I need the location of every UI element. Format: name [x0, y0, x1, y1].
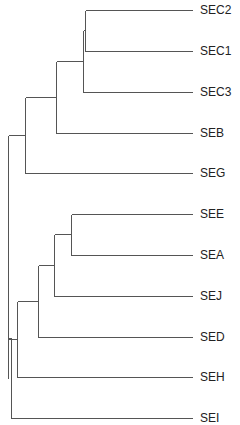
- leaf-label-seb: SEB: [200, 126, 224, 140]
- leaf-label-sej: SEJ: [200, 289, 222, 303]
- leaf-label-sed: SED: [200, 330, 225, 344]
- leaf-label-see: SEE: [200, 207, 224, 221]
- leaf-label-seh: SEH: [200, 370, 225, 384]
- leaf-label-sea: SEA: [200, 248, 224, 262]
- leaf-label-sec2: SEC2: [200, 3, 231, 17]
- leaf-label-seg: SEG: [200, 166, 225, 180]
- leaf-label-sec3: SEC3: [200, 85, 231, 99]
- leaf-label-sec1: SEC1: [200, 44, 231, 58]
- leaf-label-sei: SEI: [200, 411, 219, 425]
